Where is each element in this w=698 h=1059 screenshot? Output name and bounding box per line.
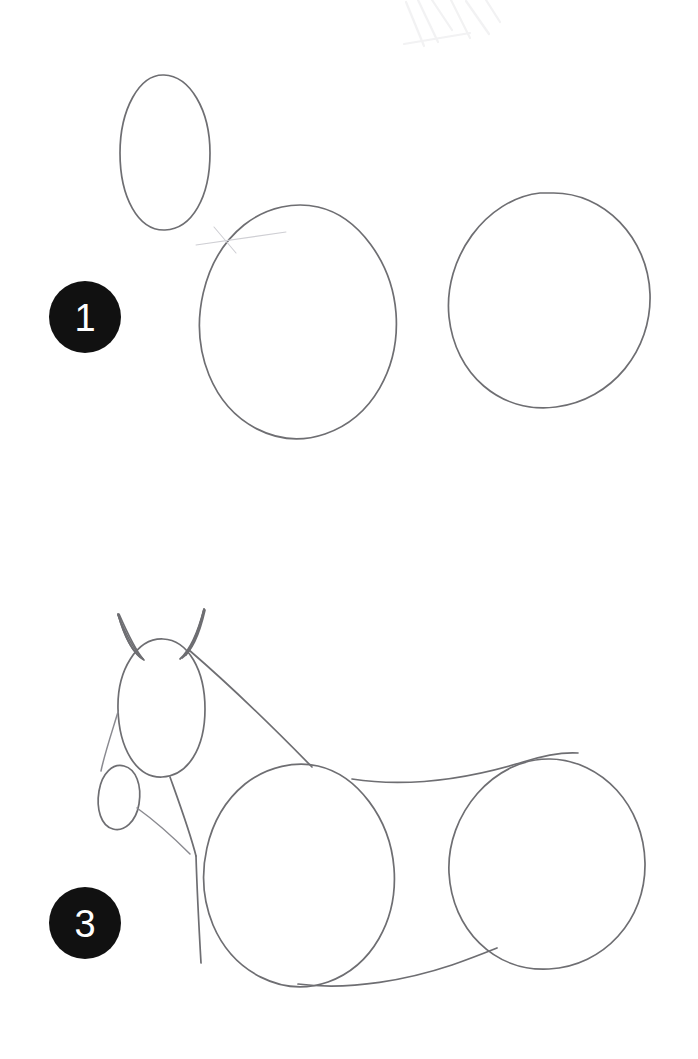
tutorial-canvas: 1	[0, 0, 698, 1059]
step-3-badge: 3	[49, 887, 121, 959]
step-3-badge-label: 3	[74, 903, 95, 945]
step-1-badge-label: 1	[74, 297, 95, 339]
step-1-badge: 1	[49, 281, 121, 353]
